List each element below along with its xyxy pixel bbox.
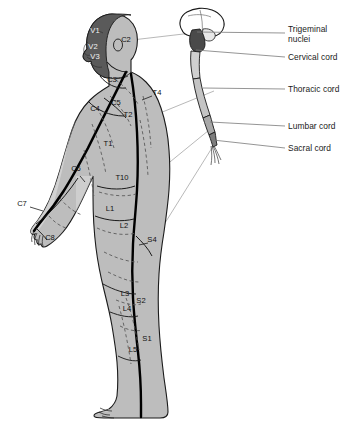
dermatome-label-c8: C8: [45, 233, 55, 242]
callout-trigeminal-nuclei: Trigeminal nuclei: [288, 24, 327, 45]
dermatome-label-t2: T2: [124, 110, 133, 119]
dermatome-label-s4: S4: [147, 235, 156, 244]
lumbar-cord-segment: [203, 115, 215, 135]
dermatome-label-c6: C6: [71, 164, 81, 173]
dermatome-label-l5: L5: [129, 345, 137, 354]
dermatome-label-l3: L3: [121, 289, 129, 298]
dermatome-label-v2: V2: [88, 42, 97, 51]
dermatome-label-l2: L2: [120, 221, 128, 230]
dermatome-label-s1: S1: [142, 334, 151, 343]
diagram-canvas: V1V2V3C2C3C4C5C6C7C8T1T2T4T10L1L2S4L3S2L…: [0, 0, 357, 426]
dermatome-label-l4: L4: [123, 304, 131, 313]
dermatome-label-t1: T1: [104, 139, 113, 148]
dermatome-label-c2: C2: [121, 35, 131, 44]
dermatome-figure: V1V2V3C2C3C4C5C6C7C8T1T2T4T10L1L2S4L3S2L…: [0, 0, 357, 426]
cervical-cord-segment: [191, 51, 200, 79]
dermatome-label-s2: S2: [136, 296, 145, 305]
callout-thoracic-cord: Thoracic cord: [288, 84, 339, 94]
sacral-cord-segment: [209, 132, 217, 147]
body-silhouette: [30, 14, 170, 418]
dermatome-label-v1: V1: [90, 26, 99, 35]
thoracic-cord-segment: [193, 78, 210, 118]
dermatome-label-v3: V3: [90, 52, 99, 61]
cauda-equina: [211, 146, 221, 165]
dermatome-label-c7: C7: [17, 199, 27, 208]
dermatome-label-c4: C4: [90, 104, 100, 113]
callout-lumbar-cord: Lumbar cord: [288, 121, 336, 131]
dermatome-label-c5: C5: [111, 98, 121, 107]
dermatome-label-l1: L1: [106, 204, 114, 213]
callout-cervical-cord: Cervical cord: [288, 52, 338, 62]
callout-sacral-cord: Sacral cord: [288, 143, 331, 153]
dermatome-label-c3: C3: [107, 75, 117, 84]
dermatome-label-t4: T4: [153, 88, 162, 97]
dermatome-label-t10: T10: [115, 173, 128, 182]
